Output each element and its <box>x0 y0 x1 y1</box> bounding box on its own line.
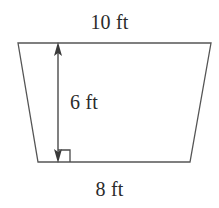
geometry-figure: 10 ft 6 ft 8 ft <box>0 0 219 208</box>
trapezoid-outline <box>18 43 211 162</box>
bottom-base-label: 8 ft <box>0 179 219 199</box>
height-label: 6 ft <box>70 92 98 112</box>
top-base-label: 10 ft <box>0 12 219 32</box>
